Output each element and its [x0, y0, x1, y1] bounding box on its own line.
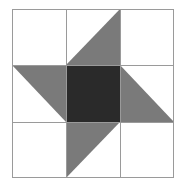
pinwheel-quilt-diagram: [0, 0, 180, 186]
center-square: [66, 65, 120, 122]
